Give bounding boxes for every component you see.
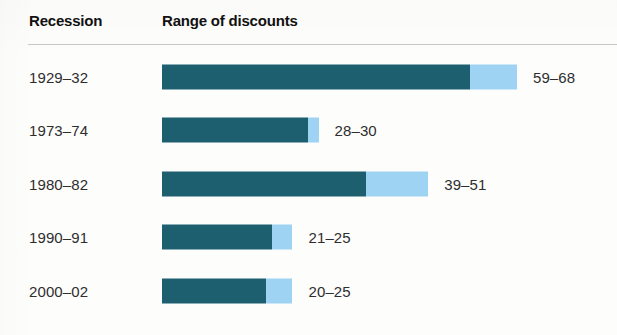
- bar-segment-low: [162, 65, 470, 90]
- bar-segment-low: [162, 279, 266, 304]
- bar-segment-high: [272, 225, 293, 250]
- range-value-label: 28–30: [335, 122, 377, 139]
- row-label: 1990–91: [29, 229, 88, 246]
- header-divider: [28, 44, 617, 45]
- range-value-label: 59–68: [533, 69, 575, 86]
- column-header-range: Range of discounts: [162, 12, 298, 29]
- bar-segment-high: [470, 65, 517, 90]
- bar-group: [162, 279, 292, 304]
- range-value-label: 20–25: [309, 283, 351, 300]
- bar-group: [162, 172, 428, 197]
- column-header-recession: Recession: [29, 12, 102, 29]
- row-label: 1929–32: [29, 69, 88, 86]
- table-row: 2000–02 20–25: [0, 271, 617, 311]
- chart-figure: Recession Range of discounts 1929–32 59–…: [0, 0, 617, 335]
- bar-segment-high: [366, 172, 429, 197]
- bar-segment-low: [162, 118, 308, 143]
- bar-segment-high: [308, 118, 318, 143]
- table-row: 1929–32 59–68: [0, 57, 617, 97]
- bar-segment-low: [162, 225, 272, 250]
- bar-group: [162, 65, 517, 90]
- range-value-label: 39–51: [444, 176, 486, 193]
- row-label: 1973–74: [29, 122, 88, 139]
- table-row: 1980–82 39–51: [0, 164, 617, 204]
- row-label: 2000–02: [29, 283, 88, 300]
- range-value-label: 21–25: [309, 229, 351, 246]
- table-row: 1973–74 28–30: [0, 110, 617, 150]
- bar-group: [162, 118, 319, 143]
- row-label: 1980–82: [29, 176, 88, 193]
- bar-segment-high: [266, 279, 292, 304]
- table-row: 1990–91 21–25: [0, 217, 617, 257]
- bar-segment-low: [162, 172, 366, 197]
- bar-group: [162, 225, 292, 250]
